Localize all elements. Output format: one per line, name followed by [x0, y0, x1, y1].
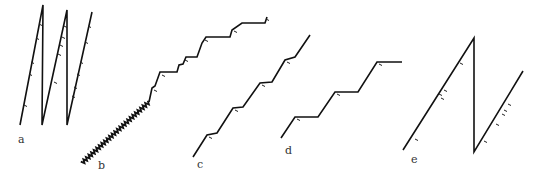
- panel-d-label: d: [285, 144, 292, 157]
- panel-a-label: a: [18, 133, 25, 146]
- panel-b-label: b: [98, 159, 105, 172]
- background: [0, 0, 540, 180]
- diagram-canvas: a b c d e: [0, 0, 540, 180]
- panel-c-label: c: [197, 158, 203, 171]
- panel-e-label: e: [411, 153, 418, 166]
